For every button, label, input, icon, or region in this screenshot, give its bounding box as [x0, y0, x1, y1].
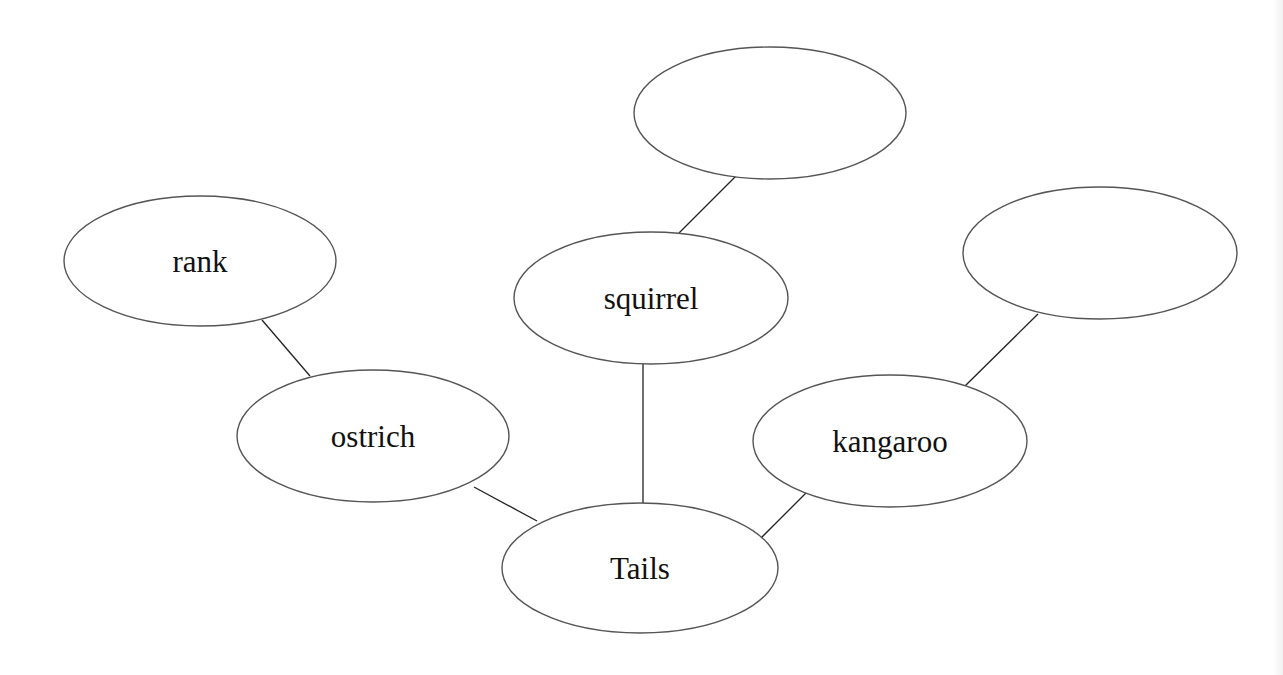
diagram-nodes: Tailsostrichranksquirrelkangaroo: [64, 47, 1237, 633]
label-squirrel: squirrel: [604, 281, 699, 316]
node-blank-top: [634, 47, 906, 179]
edge-kangaroo-blank-right: [965, 314, 1038, 386]
node-rank: rank: [64, 196, 336, 326]
node-ostrich: ostrich: [237, 370, 509, 502]
node-kangaroo: kangaroo: [753, 375, 1027, 507]
ellipse-blank-right: [963, 187, 1237, 319]
edge-squirrel-blank-top: [679, 173, 739, 233]
worksheet-page: Tailsostrichranksquirrelkangaroo: [0, 0, 1283, 675]
node-tails: Tails: [502, 503, 778, 633]
node-squirrel: squirrel: [514, 232, 788, 364]
edge-ostrich-tails: [474, 487, 537, 521]
word-web-diagram: Tailsostrichranksquirrelkangaroo: [0, 0, 1283, 675]
label-rank: rank: [172, 244, 228, 279]
ellipse-blank-top: [634, 47, 906, 179]
label-tails: Tails: [610, 551, 670, 586]
node-blank-right: [963, 187, 1237, 319]
label-kangaroo: kangaroo: [832, 424, 947, 459]
edge-rank-ostrich: [262, 320, 310, 376]
edge-kangaroo-tails: [758, 492, 807, 541]
label-ostrich: ostrich: [331, 419, 416, 454]
